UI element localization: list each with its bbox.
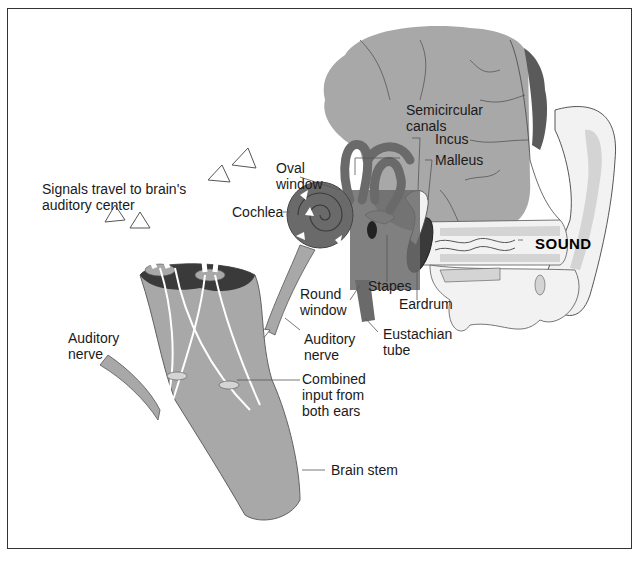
- label-eustachian-tube: Eustachian tube: [383, 326, 452, 358]
- label-auditory-nerve-right: Auditory nerve: [304, 331, 355, 363]
- label-stapes: Stapes: [368, 278, 412, 294]
- auditory-nerve-left: [100, 355, 160, 420]
- label-malleus: Malleus: [435, 152, 483, 168]
- label-combined-input: Combined input from both ears: [302, 371, 366, 419]
- label-brain-stem: Brain stem: [331, 462, 398, 478]
- ear-brain-illustration: [0, 0, 641, 565]
- label-auditory-nerve-left: Auditory nerve: [68, 330, 119, 362]
- label-oval-window: Oval window: [276, 160, 323, 192]
- label-cochlea: Cochlea: [232, 204, 283, 220]
- label-sound: SOUND: [535, 236, 592, 252]
- label-eardrum: Eardrum: [399, 296, 453, 312]
- label-semicircular-canals: Semicircular canals: [406, 102, 483, 134]
- label-round-window: Round window: [300, 286, 347, 318]
- label-signals: Signals travel to brain's auditory cente…: [42, 181, 186, 213]
- label-incus: Incus: [435, 131, 468, 147]
